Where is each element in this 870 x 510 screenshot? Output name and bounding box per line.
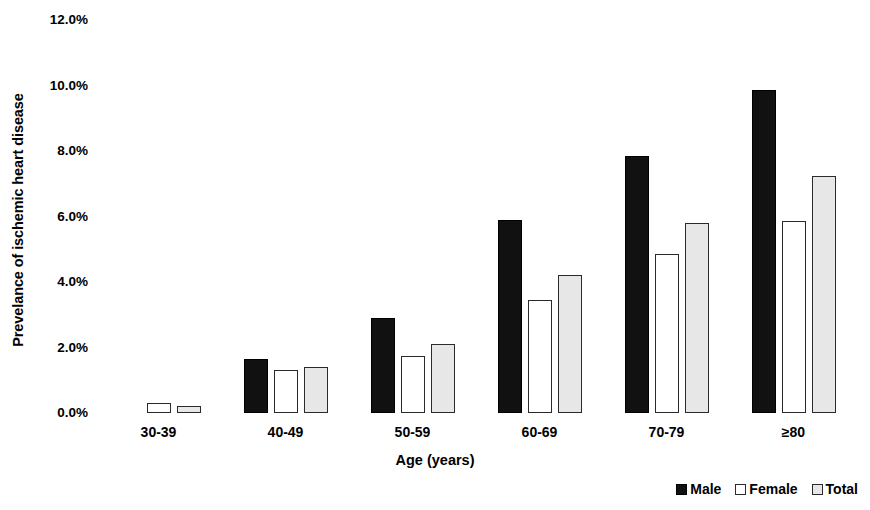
legend-item-female[interactable]: Female [735, 481, 797, 497]
bar-group [222, 20, 349, 413]
bar-total-≥80 [812, 176, 836, 413]
bar-total-70-79 [685, 223, 709, 413]
y-axis-tick-label: 10.0% [30, 79, 88, 93]
bar-male-≥80 [752, 90, 776, 413]
plot-area [95, 20, 857, 413]
x-axis-tick-label: 30-39 [141, 424, 177, 440]
y-axis-tick-label: 0.0% [30, 406, 88, 420]
bar-male-60-69 [498, 220, 522, 413]
bar-male-70-79 [625, 156, 649, 413]
y-axis-tick-label: 4.0% [30, 275, 88, 289]
bar-female-40-49 [274, 370, 298, 413]
bar-female-30-39 [147, 403, 171, 413]
x-axis-title: Age (years) [0, 452, 870, 468]
chart-figure: Prevelance of ischemic heart disease 0.0… [0, 0, 870, 510]
bar-group [95, 20, 222, 413]
x-axis-tick-label: 70-79 [649, 424, 685, 440]
legend-label: Female [749, 481, 797, 497]
y-axis-tick-label: 8.0% [30, 144, 88, 158]
x-axis-tick-label: 40-49 [268, 424, 304, 440]
legend-swatch-female-icon [735, 484, 746, 495]
legend-swatch-male-icon [676, 484, 687, 495]
legend-item-total[interactable]: Total [812, 481, 858, 497]
bar-group [476, 20, 603, 413]
legend-item-male[interactable]: Male [676, 481, 721, 497]
y-axis-tick-label: 2.0% [30, 341, 88, 355]
x-axis-title-label: Age (years) [396, 452, 475, 468]
bar-female-50-59 [401, 356, 425, 413]
bar-female-70-79 [655, 254, 679, 413]
x-axis-tick-label: ≥80 [782, 424, 805, 440]
bar-female-60-69 [528, 300, 552, 413]
y-axis-title-label: Prevelance of ischemic heart disease [10, 93, 26, 347]
bar-total-50-59 [431, 344, 455, 413]
y-axis-tick-label: 6.0% [30, 210, 88, 224]
x-axis-tick-label: 60-69 [522, 424, 558, 440]
legend-label: Male [690, 481, 721, 497]
bar-total-30-39 [177, 406, 201, 413]
bar-female-≥80 [782, 221, 806, 413]
bar-group [730, 20, 857, 413]
chart-legend: MaleFemaleTotal [676, 481, 858, 497]
bar-total-40-49 [304, 367, 328, 413]
legend-swatch-total-icon [812, 484, 823, 495]
y-axis-tick-label: 12.0% [30, 13, 88, 27]
x-axis-tick-label: 50-59 [395, 424, 431, 440]
legend-label: Total [826, 481, 858, 497]
bar-male-40-49 [244, 359, 268, 413]
bar-total-60-69 [558, 275, 582, 413]
bar-group [349, 20, 476, 413]
bar-male-50-59 [371, 318, 395, 413]
bar-group [603, 20, 730, 413]
